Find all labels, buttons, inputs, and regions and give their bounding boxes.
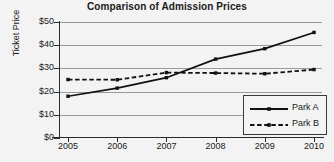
y-tick-label: $10 [22,109,54,119]
chart-legend: Park APark B [243,95,327,135]
y-axis-line [59,21,60,139]
legend-swatch-icon [249,117,289,133]
y-tick-label: $30 [22,62,54,72]
x-tick-mark [265,137,266,142]
chart-title: Comparison of Admission Prices [0,1,334,12]
x-tick-label: 2008 [196,141,236,151]
x-axis-line [52,137,324,138]
y-tick-label: $40 [22,39,54,49]
x-tick-label: 2009 [245,141,285,151]
x-tick-label: 2006 [97,141,137,151]
x-tick-mark [117,137,118,142]
chart-container: Comparison of Admission Prices Ticket Pr… [0,0,334,162]
gridline [60,92,322,93]
gridline [60,68,322,69]
gridline [60,45,322,46]
legend-label: Park A [292,102,319,112]
legend-swatch-icon [249,101,289,117]
x-tick-label: 2007 [146,141,186,151]
x-tick-mark [68,137,69,142]
x-tick-mark [166,137,167,142]
legend-item-park-b[interactable]: Park B [244,117,328,133]
y-tick-label: $50 [22,16,54,26]
x-tick-label: 2010 [294,141,334,151]
x-tick-label: 2005 [48,141,88,151]
y-axis-label: Ticket Price [11,0,21,85]
x-tick-mark [314,137,315,142]
legend-label: Park B [292,118,319,128]
legend-item-park-a[interactable]: Park A [244,101,328,117]
y-tick-label: $20 [22,86,54,96]
gridline [60,22,322,23]
x-tick-mark [216,137,217,142]
